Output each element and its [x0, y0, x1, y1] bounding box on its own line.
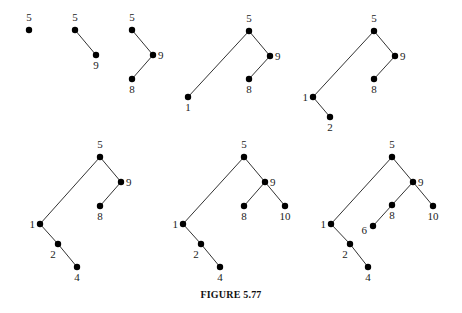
node-label: 8 — [129, 83, 135, 95]
tree-edge — [331, 157, 392, 224]
tree-node — [37, 221, 43, 227]
tree-node — [371, 28, 377, 34]
node-label: 8 — [389, 209, 395, 221]
tree-edge — [313, 31, 374, 97]
tree-node — [347, 241, 353, 247]
tree-edge — [244, 182, 265, 206]
tree-node — [72, 27, 78, 33]
node-label: 5 — [241, 138, 247, 150]
bst-insertion-diagram: 55959859815981259812459810124598106124 — [0, 0, 462, 313]
node-label: 8 — [246, 83, 252, 95]
node-label: 9 — [275, 50, 281, 62]
node-label: 1 — [173, 218, 179, 230]
tree-step-4: 5981 — [185, 12, 281, 113]
tree-node — [246, 76, 252, 82]
node-label: 1 — [303, 91, 309, 103]
tree-step-1: 5 — [26, 11, 32, 33]
node-label: 4 — [365, 271, 371, 283]
node-label: 9 — [126, 176, 132, 188]
tree-edge — [75, 30, 96, 55]
tree-node — [262, 179, 268, 185]
tree-node — [241, 203, 247, 209]
node-label: 5 — [97, 138, 103, 150]
tree-edge — [201, 244, 220, 267]
tree-node — [26, 27, 32, 33]
node-label: 5 — [72, 11, 78, 23]
tree-node — [97, 203, 103, 209]
tree-node — [241, 154, 247, 160]
tree-step-2: 59 — [72, 11, 99, 71]
tree-node — [129, 27, 135, 33]
tree-step-8: 598106124 — [321, 138, 440, 283]
node-label: 2 — [193, 248, 199, 260]
node-label: 2 — [50, 248, 56, 260]
node-label: 5 — [389, 138, 395, 150]
node-label: 2 — [327, 121, 333, 133]
node-label: 9 — [418, 176, 424, 188]
tree-node — [180, 221, 186, 227]
node-label: 1 — [321, 218, 327, 230]
node-label: 10 — [428, 210, 440, 222]
tree-node — [327, 114, 333, 120]
tree-edge — [100, 182, 121, 206]
tree-edge — [40, 157, 100, 224]
tree-node — [217, 264, 223, 270]
tree-node — [310, 94, 316, 100]
node-label: 9 — [270, 176, 276, 188]
tree-edge — [188, 31, 249, 97]
tree-edge — [331, 224, 350, 244]
tree-edge — [392, 182, 413, 205]
tree-edge — [392, 157, 413, 182]
tree-edge — [132, 30, 153, 55]
node-label: 5 — [129, 11, 135, 23]
tree-node — [267, 53, 273, 59]
figure-caption: FIGURE 5.77 — [0, 289, 462, 300]
tree-node — [118, 179, 124, 185]
tree-step-7: 59810124 — [173, 138, 292, 283]
tree-node — [282, 203, 288, 209]
tree-node — [389, 154, 395, 160]
node-label: 10 — [280, 210, 292, 222]
tree-step-5: 59812 — [303, 12, 407, 133]
tree-node — [198, 241, 204, 247]
tree-node — [74, 264, 80, 270]
tree-node — [430, 203, 436, 209]
tree-edge — [350, 244, 368, 267]
tree-node — [365, 264, 371, 270]
tree-edge — [40, 224, 58, 244]
tree-edge — [374, 56, 395, 79]
tree-node — [410, 179, 416, 185]
tree-node — [97, 154, 103, 160]
node-label: 5 — [26, 11, 32, 23]
tree-edge — [249, 31, 270, 56]
node-label: 5 — [246, 12, 252, 24]
tree-edge — [100, 157, 121, 182]
node-label: 1 — [185, 101, 191, 113]
node-label: 8 — [371, 83, 377, 95]
tree-edge — [58, 244, 77, 267]
tree-node — [93, 52, 99, 58]
node-label: 1 — [30, 218, 36, 230]
tree-node — [246, 28, 252, 34]
tree-node — [185, 94, 191, 100]
tree-edge — [249, 56, 270, 79]
tree-edge — [313, 97, 330, 117]
node-label: 8 — [241, 210, 247, 222]
tree-step-6: 598124 — [30, 138, 133, 283]
node-label: 9 — [158, 49, 164, 61]
tree-edge — [374, 31, 395, 56]
node-label: 8 — [97, 210, 103, 222]
tree-node — [150, 52, 156, 58]
tree-node — [129, 76, 135, 82]
tree-node — [55, 241, 61, 247]
tree-node — [370, 223, 376, 229]
node-label: 9 — [93, 59, 99, 71]
tree-node — [389, 202, 395, 208]
node-label: 6 — [362, 224, 368, 236]
tree-step-3: 598 — [129, 11, 164, 95]
node-label: 2 — [342, 248, 348, 260]
tree-edge — [132, 55, 153, 79]
tree-edge — [183, 224, 201, 244]
node-label: 5 — [371, 12, 377, 24]
node-label: 4 — [217, 271, 223, 283]
